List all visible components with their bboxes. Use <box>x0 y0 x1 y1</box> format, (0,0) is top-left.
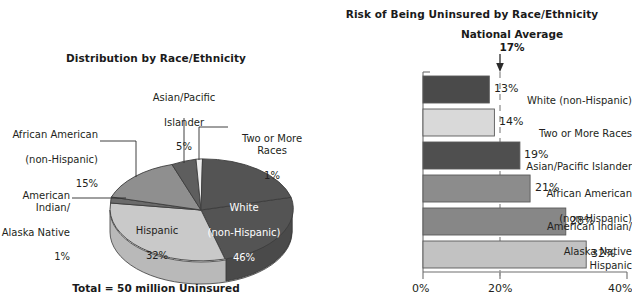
pie-label-american-indian-line2: Alaska Native <box>2 227 70 238</box>
bar-category-two-or-more-line1: Two or More Races <box>539 128 632 139</box>
pie-label-white-value: 46% <box>233 252 255 263</box>
pie-label-two-or-more-value: 1% <box>264 170 280 181</box>
pie-label-american-indian: American Indian/ Alaska Native 1% <box>0 178 70 263</box>
bar-white-non-hispanic <box>423 76 489 103</box>
pie-label-asian-pacific-line1: Asian/Pacific <box>153 92 215 103</box>
pie-label-american-indian-line1: American Indian/ <box>22 190 70 213</box>
pie-label-hispanic: Hispanic 32% <box>116 213 198 263</box>
pie-label-african-american-line1: African American <box>12 129 98 140</box>
pie-label-hispanic-value: 32% <box>146 250 168 261</box>
bar-asian-pacific-islander <box>423 142 520 169</box>
bar-value-asian-pacific-islander: 19% <box>524 148 548 161</box>
national-average-arrow-icon <box>496 54 504 72</box>
pie-label-two-or-more-races: Two or More Races 1% <box>228 121 316 182</box>
bar-category-two-or-more-races: Two or More Races <box>520 116 632 140</box>
pie-label-asian-pacific-line2: Islander <box>164 117 204 128</box>
pie-label-white-line2: (non-Hispanic) <box>208 227 281 238</box>
bar-category-white-line1: White (non-Hispanic) <box>527 95 632 106</box>
pie-label-asian-pacific-value: 5% <box>176 141 192 152</box>
pie-label-african-american-value: 15% <box>76 178 98 189</box>
x-axis-tick-label-0: 0% <box>412 282 429 295</box>
bar-value-two-or-more-races: 14% <box>499 115 523 128</box>
pie-label-american-indian-value: 1% <box>54 251 70 262</box>
bar-chart-panel: Risk of Being Uninsured by Race/Ethnicit… <box>312 0 632 306</box>
bar-value-white-non-hispanic: 13% <box>494 82 518 95</box>
bar-category-white-non-hispanic: White (non-Hispanic) <box>520 83 632 107</box>
x-axis-tick-label-40: 40% <box>608 282 632 295</box>
pie-label-hispanic-line1: Hispanic <box>136 225 179 236</box>
bar-african-american <box>423 175 530 202</box>
pie-label-white-non-hispanic: White (non-Hispanic) 46% <box>196 190 292 264</box>
bar-value-american-indian: 28% <box>570 214 594 227</box>
bar-value-african-american: 21% <box>535 181 559 194</box>
x-axis-tick-label-20: 20% <box>488 282 512 295</box>
pie-chart-panel: Distribution by Race/Ethnicity <box>0 0 312 306</box>
bar-category-asian-line1: Asian/Pacific Islander <box>526 161 632 172</box>
bar-value-hispanic: 32% <box>591 247 615 260</box>
pie-label-two-or-more-line1: Two or More Races <box>242 133 302 156</box>
bar-category-hispanic-line1: Hispanic <box>589 260 632 271</box>
pie-label-asian-pacific-islander: Asian/Pacific Islander 5% <box>134 80 234 153</box>
pie-label-african-american-line2: (non-Hispanic) <box>25 154 98 165</box>
leader-line-african-american <box>100 141 136 177</box>
bar-two-or-more-races <box>423 109 494 136</box>
pie-label-white-line1: White <box>229 202 258 213</box>
pie-chart-total-caption: Total = 50 million Uninsured <box>0 282 312 294</box>
